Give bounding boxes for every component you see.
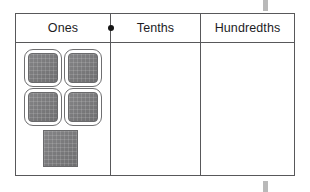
column-header-hundredths-label: Hundredths — [215, 22, 281, 35]
column-header-ones-label: Ones — [48, 22, 78, 35]
column-header-tenths-label: Tenths — [137, 22, 174, 35]
unit-block-face — [28, 53, 58, 83]
place-value-chart: Ones Tenths Hundredths — [15, 13, 295, 176]
unit-block-4[interactable] — [64, 88, 102, 126]
column-header-tenths: Tenths — [110, 14, 200, 42]
cell-ones[interactable] — [16, 43, 110, 175]
column-header-hundredths: Hundredths — [200, 14, 294, 42]
cell-hundredths[interactable] — [200, 43, 294, 175]
unit-block-face — [68, 92, 98, 122]
unit-block-1[interactable] — [24, 49, 62, 87]
ones-blocks-area — [16, 43, 110, 175]
unit-block-3[interactable] — [24, 88, 62, 126]
chart-header-row: Ones Tenths Hundredths — [16, 14, 294, 43]
column-header-ones: Ones — [16, 14, 110, 42]
decimal-point-marker — [108, 25, 114, 31]
chart-body-row — [16, 43, 294, 175]
ones-block-grid — [24, 49, 102, 126]
unit-block-face — [43, 130, 78, 167]
scan-artifact-bottom — [263, 181, 268, 192]
unit-block-5[interactable] — [43, 130, 78, 167]
cell-tenths[interactable] — [110, 43, 200, 175]
unit-block-2[interactable] — [64, 49, 102, 87]
scan-artifact-top — [263, 0, 268, 11]
unit-block-face — [28, 92, 58, 122]
unit-block-face — [68, 53, 98, 83]
